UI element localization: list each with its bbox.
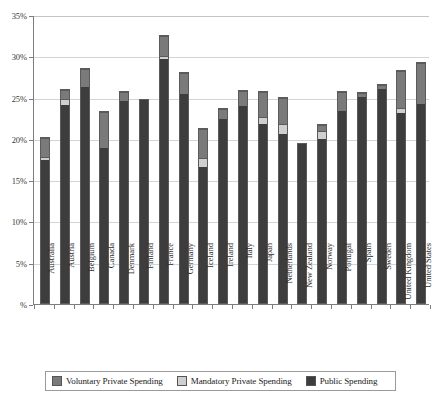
bar-segment-voluntary-private xyxy=(239,91,247,105)
y-tick-label: 5% xyxy=(0,260,27,269)
legend-label: Voluntary Private Spending xyxy=(66,377,163,386)
x-axis-label: Spain xyxy=(364,243,373,311)
bar-segment-voluntary-private xyxy=(180,73,188,94)
x-axis-label: Netherlands xyxy=(285,243,294,311)
bar-segment-voluntary-private xyxy=(417,63,425,104)
x-axis-label: Iceland xyxy=(206,243,215,311)
x-axis-label: Belgium xyxy=(87,243,96,311)
x-axis-label: Sweden xyxy=(384,243,393,311)
x-axis-label: Japan xyxy=(265,243,274,311)
legend-entry[interactable]: Public Spending xyxy=(306,376,378,386)
legend-label: Public Spending xyxy=(320,377,378,386)
x-axis-label: Austria xyxy=(67,243,76,311)
x-axis-label: Norway xyxy=(325,243,334,311)
x-axis-label: Portugal xyxy=(344,243,353,311)
stacked-bar-chart: %5%10%15%20%25%30%35% AustraliaAustriaBe… xyxy=(0,0,433,401)
bar-segment-voluntary-private xyxy=(397,71,405,108)
legend-entry[interactable]: Mandatory Private Spending xyxy=(177,376,292,386)
legend-label: Mandatory Private Spending xyxy=(191,377,292,386)
x-axis-label: Denmark xyxy=(127,243,136,311)
x-axis-label: New Zealand xyxy=(305,243,314,311)
bar-segment-voluntary-private xyxy=(81,69,89,87)
x-axis-label: Australia xyxy=(47,243,56,311)
x-axis-label: Finland xyxy=(146,243,155,311)
legend-entry[interactable]: Voluntary Private Spending xyxy=(52,376,163,386)
bar-segment-voluntary-private xyxy=(199,129,207,158)
square-swatch-icon xyxy=(52,376,62,386)
y-tick-label: % xyxy=(0,301,27,310)
y-tick-label: 30% xyxy=(0,53,27,62)
y-tick-label: 15% xyxy=(0,177,27,186)
square-swatch-icon xyxy=(306,376,316,386)
bar-segment-voluntary-private xyxy=(338,92,346,110)
bar-segment-mandatory-private xyxy=(318,131,326,139)
bar-segment-voluntary-private xyxy=(61,90,69,99)
chart-legend: Voluntary Private SpendingMandatory Priv… xyxy=(45,371,396,391)
x-axis-label: Ireland xyxy=(226,243,235,311)
x-axis-label: Canada xyxy=(107,243,116,311)
bar-segment-mandatory-private xyxy=(199,158,207,166)
bar-segment-voluntary-private xyxy=(259,92,267,117)
y-tick-label: 25% xyxy=(0,95,27,104)
square-swatch-icon xyxy=(177,376,187,386)
x-axis-label: France xyxy=(166,243,175,311)
y-tick-label: 20% xyxy=(0,136,27,145)
bar-segment-voluntary-private xyxy=(100,112,108,148)
x-axis-label: Germany xyxy=(186,243,195,311)
y-tick-label: 35% xyxy=(0,12,27,21)
x-tick-mark xyxy=(34,305,35,309)
bar-segment-voluntary-private xyxy=(41,138,49,156)
bar-segment-voluntary-private xyxy=(279,98,287,124)
bar-segment-voluntary-private xyxy=(219,109,227,119)
bar-segment-voluntary-private xyxy=(120,92,128,100)
x-axis-label: Italy xyxy=(245,243,254,311)
bar-segment-voluntary-private xyxy=(160,36,168,56)
bar-segment-mandatory-private xyxy=(279,124,287,134)
y-tick-label: 10% xyxy=(0,218,27,227)
bar-segment-mandatory-private xyxy=(259,117,267,124)
x-axis-label: United States xyxy=(424,243,433,311)
y-tick-mark xyxy=(29,305,33,306)
x-axis-label: United Kingdom xyxy=(404,243,413,311)
